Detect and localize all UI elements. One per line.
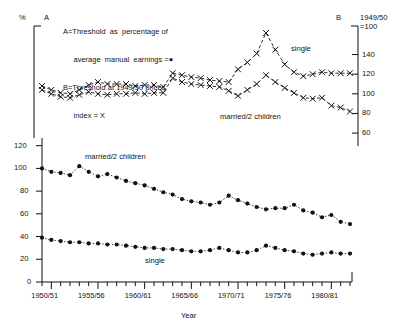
annotation-lower-married: married/2 children	[85, 152, 146, 161]
annotation-upper-single: single	[291, 44, 311, 53]
lower-axis-tick-20: 20	[20, 254, 28, 263]
series-lower-married-2-children	[40, 164, 352, 226]
series-lower-single	[40, 236, 352, 257]
x-axis-title: Year	[181, 311, 196, 320]
figure-chart-threshold-trends: % A B A=Threshold as percentage of avera…	[0, 0, 404, 325]
right-axis-tick-80: 80	[362, 108, 370, 117]
right-axis-header-line2: =100	[360, 22, 377, 31]
x-axis-tick-label-1950-51: 1950/51	[31, 291, 58, 300]
x-axis-tick-label-1975-76: 1975/76	[265, 291, 292, 300]
legend-line-a2: average manual earnings =●	[63, 55, 173, 64]
panel-a-tag: A	[44, 13, 49, 22]
right-axis-tick-120: 120	[362, 69, 375, 78]
x-axis-tick-label-1960-61: 1960/61	[125, 291, 152, 300]
legend-line-b2: index = X	[63, 111, 173, 120]
lower-axis-tick-40: 40	[20, 232, 28, 241]
legend-block: A=Threshold as percentage of average man…	[63, 8, 173, 140]
panel-b-tag: B	[336, 13, 341, 22]
right-axis-tick-100: 100	[362, 89, 375, 98]
legend-line-a1: A=Threshold as percentage of	[63, 27, 173, 36]
annotation-upper-married: married/2 children	[220, 112, 281, 121]
right-axis-tick-60: 60	[362, 128, 370, 137]
annotation-lower-single: single	[145, 256, 165, 265]
lower-axis-tick-100: 100	[14, 163, 27, 172]
right-axis-tick-140: 140	[362, 50, 375, 59]
x-axis-tick-label-1965-66: 1965/66	[171, 291, 198, 300]
lower-axis-tick-80: 80	[20, 186, 28, 195]
left-axis-unit-label: %	[19, 13, 26, 22]
x-axis-tick-label-1980-81: 1980/81	[311, 291, 338, 300]
legend-line-b1: B=Threshold at 1949/50 prices	[63, 83, 173, 92]
lower-axis-tick-0: 0	[27, 277, 31, 286]
lower-axis-tick-120: 120	[14, 141, 27, 150]
x-axis-tick-label-1970-71: 1970/71	[218, 291, 245, 300]
right-axis-header-line1: 1949/50	[360, 13, 387, 22]
lower-axis-tick-60: 60	[20, 209, 28, 218]
chart-canvas	[0, 0, 404, 325]
x-axis-tick-label-1955-56: 1955/56	[78, 291, 105, 300]
